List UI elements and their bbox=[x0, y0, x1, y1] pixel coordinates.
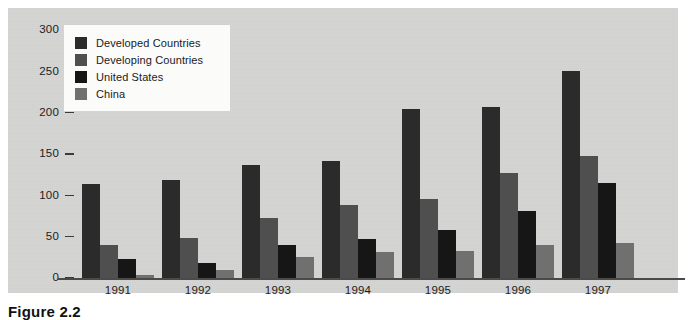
bar bbox=[136, 275, 154, 278]
bar bbox=[180, 238, 198, 278]
legend-swatch-icon bbox=[75, 88, 87, 100]
x-axis-label: 1995 bbox=[395, 284, 481, 296]
legend-item-label: Developing Countries bbox=[96, 54, 203, 66]
legend-item-label: United States bbox=[96, 71, 163, 83]
legend-item: United States bbox=[75, 68, 220, 85]
x-axis-label: 1992 bbox=[155, 284, 241, 296]
x-axis-label: 1993 bbox=[235, 284, 321, 296]
legend-item-label: China bbox=[96, 88, 125, 100]
bar bbox=[518, 211, 536, 278]
bar-group bbox=[402, 28, 474, 278]
legend-item: China bbox=[75, 85, 220, 102]
bar-group bbox=[242, 28, 314, 278]
bar bbox=[456, 251, 474, 278]
bar bbox=[358, 239, 376, 278]
bar bbox=[278, 245, 296, 278]
bar bbox=[260, 218, 278, 278]
x-axis-label: 1991 bbox=[75, 284, 161, 296]
bar bbox=[598, 183, 616, 278]
bar-group bbox=[562, 28, 634, 278]
chart-legend: Developed CountriesDeveloping CountriesU… bbox=[64, 25, 230, 111]
bar bbox=[216, 270, 234, 278]
bar-group bbox=[322, 28, 394, 278]
x-axis-labels: 1991199219931994199519961997 bbox=[0, 284, 688, 300]
bar bbox=[340, 205, 358, 278]
bar-chart: 050100150200250300 199119921993199419951… bbox=[0, 0, 688, 295]
bar bbox=[402, 109, 420, 278]
bar bbox=[420, 199, 438, 278]
bar bbox=[82, 184, 100, 278]
legend-item: Developing Countries bbox=[75, 51, 220, 68]
bar bbox=[100, 245, 118, 278]
legend-swatch-icon bbox=[75, 54, 87, 66]
bar bbox=[438, 230, 456, 278]
figure-caption: Figure 2.2 bbox=[8, 303, 81, 320]
bar bbox=[536, 245, 554, 278]
bar bbox=[242, 165, 260, 278]
bar bbox=[616, 243, 634, 278]
bar bbox=[296, 257, 314, 278]
bar-group bbox=[482, 28, 554, 278]
legend-item-label: Developed Countries bbox=[96, 37, 201, 49]
legend-swatch-icon bbox=[75, 71, 87, 83]
x-axis-label: 1997 bbox=[555, 284, 641, 296]
x-axis-label: 1994 bbox=[315, 284, 401, 296]
bar bbox=[322, 161, 340, 278]
bar bbox=[376, 252, 394, 278]
x-axis-label: 1996 bbox=[475, 284, 561, 296]
bar bbox=[500, 173, 518, 278]
legend-item: Developed Countries bbox=[75, 34, 220, 51]
bar bbox=[562, 71, 580, 278]
bar bbox=[118, 259, 136, 278]
legend-swatch-icon bbox=[75, 37, 87, 49]
bar bbox=[162, 180, 180, 278]
bar bbox=[580, 156, 598, 278]
bar bbox=[198, 263, 216, 278]
bar bbox=[482, 107, 500, 278]
